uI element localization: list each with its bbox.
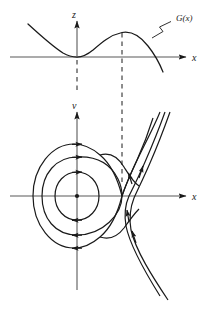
upper-x-axis-label: x xyxy=(191,52,197,63)
curve-label-g: G(x) xyxy=(176,13,193,23)
lower-x-axis-label: x xyxy=(191,191,197,202)
potential-curve-G xyxy=(28,24,163,72)
center-equilibrium-dot xyxy=(75,194,79,198)
upper-panel: G(x) z x xyxy=(10,9,197,72)
trajectory-outer-right-2 xyxy=(130,112,170,300)
upper-z-axis-label: z xyxy=(71,9,76,20)
flow-arrow-saddle-up-2 xyxy=(139,166,143,178)
g-label-leader-line xyxy=(152,22,171,39)
lower-v-axis-label: v xyxy=(72,100,77,111)
figure-container: G(x) z x v x xyxy=(0,0,214,312)
diagram-svg: G(x) z x v x xyxy=(0,0,214,312)
flow-arrow-saddle-up-3 xyxy=(127,210,129,222)
lower-panel: v x xyxy=(10,100,197,300)
